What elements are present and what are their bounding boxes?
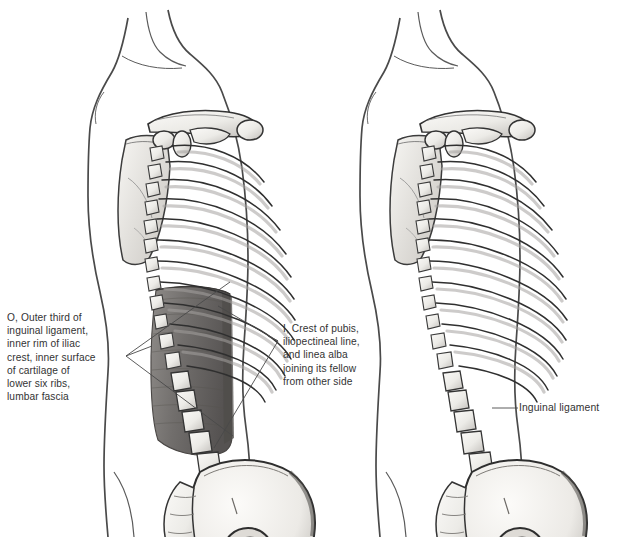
right-thigh-line — [386, 472, 406, 537]
left-thigh-line — [114, 472, 134, 537]
right-neck-line — [418, 12, 458, 66]
figure-right-skeleton-only — [360, 10, 587, 537]
right-body-back-contour — [360, 18, 400, 537]
label-origin-text: O, Outer third of inguinal ligament, inn… — [7, 311, 147, 403]
left-axilla-line — [95, 92, 104, 124]
right-shoulder-crease — [394, 56, 454, 69]
anatomy-plate — [0, 0, 629, 537]
label-insertion-text: I, Crest of pubis, iliopectineal line, a… — [283, 322, 403, 388]
figure-left-with-muscle — [88, 10, 315, 537]
left-neck-line — [146, 12, 186, 66]
left-shoulder-crease — [122, 56, 182, 69]
illustration-page: O, Outer third of inguinal ligament, inn… — [0, 0, 629, 537]
left-body-back-contour — [88, 18, 128, 537]
label-inguinal-ligament-text: Inguinal ligament — [519, 401, 629, 414]
right-axilla-line — [367, 92, 376, 124]
